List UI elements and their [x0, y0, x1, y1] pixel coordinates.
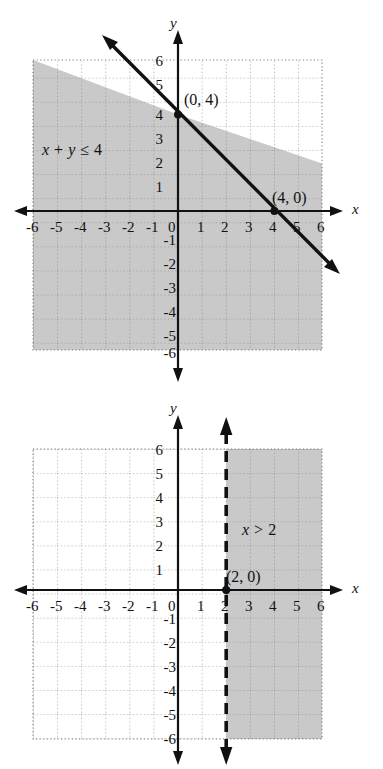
x-axis-arrow-left [14, 206, 27, 216]
y-tick-neg4-bottom: -4 [164, 683, 177, 699]
y-tick-neg1-bottom: -1 [164, 611, 177, 627]
y-tick-neg3-bottom: -3 [164, 659, 177, 675]
x-tick-neg3-top: -3 [98, 219, 111, 235]
y-tick-6-bottom: 6 [156, 442, 164, 458]
x-tick-neg5-bottom: -5 [50, 598, 63, 614]
point-4-0 [270, 207, 278, 215]
boundary-arrow-down-bottom [220, 747, 232, 765]
inequality-relation-top: ≤ [80, 141, 89, 158]
x-tick-neg6-bottom: -6 [26, 598, 39, 614]
x-tick-neg4-top: -4 [74, 219, 87, 235]
x-axis-arrow-left-bottom [14, 585, 27, 595]
y-tick-neg1-top: -1 [164, 232, 177, 248]
x-tick-1-bottom: 1 [197, 598, 205, 614]
x-tick-3-top: 3 [245, 219, 253, 235]
point-label-2-0: (2, 0) [226, 568, 261, 586]
x-axis-arrow-right-bottom [330, 585, 343, 595]
x-tick-3-bottom: 3 [245, 598, 253, 614]
y-tick-6-top: 6 [156, 53, 164, 69]
x-axis-arrow-right [330, 206, 343, 216]
x-tick-6-bottom: 6 [317, 598, 325, 614]
y-tick-3-bottom: 3 [156, 514, 164, 530]
y-tick-4-bottom: 4 [156, 490, 164, 506]
x-tick-1-top: 1 [197, 219, 205, 235]
x-tick-4-top: 4 [269, 219, 277, 235]
x-tick-6-top: 6 [317, 219, 325, 235]
figure-page: x y -6 -5 -4 -3 -2 -1 0 1 2 3 4 5 6 6 5 … [0, 0, 383, 769]
point-0-4 [174, 111, 182, 119]
y-tick-5-top: 5 [156, 77, 164, 93]
y-axis-label-bottom: y [168, 400, 177, 416]
y-tick-neg6-bottom: -6 [164, 731, 177, 747]
x-tick-2-top: 2 [221, 219, 229, 235]
y-tick-neg2-bottom: -2 [164, 635, 177, 651]
y-axis-arrow-down [173, 368, 183, 382]
y-tick-neg5-top: -5 [164, 328, 177, 344]
inequality-relation-bottom: > [254, 521, 263, 538]
y-axis-arrow-up [173, 30, 183, 44]
point-label-4-0: (4, 0) [272, 189, 307, 207]
y-tick-1-bottom: 1 [156, 562, 164, 578]
y-tick-5-bottom: 5 [156, 466, 164, 482]
x-tick-neg1-bottom: -1 [146, 598, 159, 614]
point-label-0-4: (0, 4) [184, 91, 219, 109]
y-axis-label-top: y [168, 15, 177, 31]
inequality-rhs-top: 4 [94, 141, 102, 158]
x-tick-neg1-top: -1 [146, 219, 159, 235]
y-tick-4-top: 4 [156, 107, 164, 123]
y-tick-neg4-top: -4 [164, 304, 177, 320]
y-tick-neg3-top: -3 [164, 280, 177, 296]
y-tick-2-top: 2 [156, 155, 164, 171]
coordinate-plane-bottom: x y -6 -5 -4 -3 -2 -1 0 1 2 3 4 5 6 6 5 … [0, 385, 383, 769]
graph-panel-top: x y -6 -5 -4 -3 -2 -1 0 1 2 3 4 5 6 6 5 … [0, 0, 383, 385]
y-axis-arrow-up-bottom [173, 415, 183, 429]
coordinate-plane-top: x y -6 -5 -4 -3 -2 -1 0 1 2 3 4 5 6 6 5 … [0, 0, 383, 385]
x-tick-neg5-top: -5 [50, 219, 63, 235]
inequality-label-bottom: x>2 [241, 521, 276, 538]
x-tick-neg2-bottom: -2 [122, 598, 135, 614]
inequality-var1-top: x [41, 141, 49, 158]
x-axis-label-bottom: x [351, 580, 359, 596]
inequality-rhs-bottom: 2 [268, 521, 276, 538]
x-tick-neg4-bottom: -4 [74, 598, 87, 614]
x-axis-label-top: x [351, 201, 359, 217]
x-tick-4-bottom: 4 [269, 598, 277, 614]
x-tick-neg2-top: -2 [122, 219, 135, 235]
y-tick-neg6-top: -6 [164, 345, 177, 361]
y-tick-neg2-top: -2 [164, 256, 177, 272]
x-tick-5-top: 5 [293, 219, 301, 235]
boundary-arrow-up-bottom [220, 417, 232, 435]
y-tick-neg5-bottom: -5 [164, 707, 177, 723]
x-tick-5-bottom: 5 [293, 598, 301, 614]
y-tick-1-top: 1 [156, 179, 164, 195]
inequality-var2-top: y [66, 141, 76, 159]
x-tick-2-bottom: 2 [221, 598, 229, 614]
graph-panel-bottom: x y -6 -5 -4 -3 -2 -1 0 1 2 3 4 5 6 6 5 … [0, 385, 383, 769]
x-tick-neg3-bottom: -3 [98, 598, 111, 614]
y-tick-2-bottom: 2 [156, 538, 164, 554]
y-tick-3-top: 3 [156, 131, 164, 147]
point-2-0 [222, 586, 230, 594]
x-tick-neg6-top: -6 [26, 219, 39, 235]
inequality-op1-top: + [54, 141, 63, 158]
inequality-var1-bottom: x [241, 521, 249, 538]
y-axis-arrow-down-bottom [173, 751, 183, 765]
